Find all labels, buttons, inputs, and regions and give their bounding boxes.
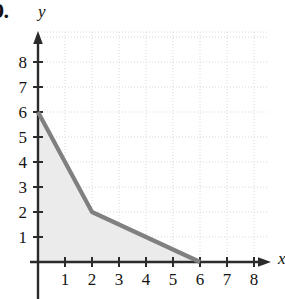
x-tick-label: 8 bbox=[250, 270, 259, 289]
y-tick-label: 4 bbox=[19, 153, 28, 172]
x-tick-label: 4 bbox=[142, 270, 151, 289]
y-tick-label: 2 bbox=[19, 203, 28, 222]
y-tick-label: 6 bbox=[19, 103, 28, 122]
y-tick-label: 5 bbox=[19, 128, 28, 147]
x-tick-label: 2 bbox=[88, 270, 97, 289]
y-tick-label: 7 bbox=[19, 78, 28, 97]
x-axis-arrow-icon bbox=[258, 257, 271, 267]
x-tick-label: 3 bbox=[115, 270, 124, 289]
y-tick-label: 1 bbox=[19, 228, 28, 247]
x-tick-label: 1 bbox=[61, 270, 70, 289]
y-tick-label: 3 bbox=[19, 178, 28, 197]
x-tick-label: 7 bbox=[223, 270, 232, 289]
x-tick-label: 6 bbox=[196, 270, 205, 289]
y-tick-label: 8 bbox=[19, 53, 28, 72]
x-tick-label: 5 bbox=[169, 270, 178, 289]
coordinate-plot: 1234567812345678 bbox=[0, 0, 285, 299]
